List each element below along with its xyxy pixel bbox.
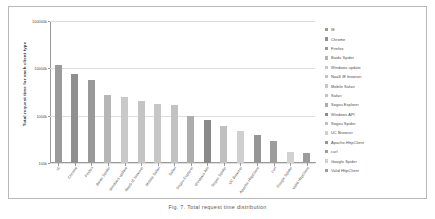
bar[interactable]	[88, 80, 95, 163]
bar[interactable]	[171, 105, 178, 163]
legend-label: Valid HttpClient	[331, 168, 359, 173]
bar[interactable]	[121, 97, 128, 163]
legend-label: Chrome	[331, 37, 345, 42]
x-label-slot: Valid HttpClient	[298, 165, 315, 207]
x-axis-tick-label: Chrome	[67, 166, 78, 180]
legend-label: Baidu Spider	[331, 55, 354, 60]
legend-label: Firefox	[331, 46, 343, 51]
legend-swatch-icon	[325, 94, 328, 97]
bar-slot	[282, 21, 299, 163]
legend-label: IE	[331, 27, 335, 32]
legend-label: Windows update	[331, 65, 361, 70]
legend-swatch-icon	[325, 37, 328, 40]
legend-item[interactable]: Apache-HttpClient	[325, 138, 431, 147]
legend-label: curl	[331, 149, 338, 154]
bar-slot	[67, 21, 84, 163]
legend-label: Google Spider	[331, 159, 357, 164]
legend-swatch-icon	[325, 131, 328, 134]
chart-figure: Total request time for each client type …	[0, 0, 435, 219]
legend-label: Apache-HttpClient	[331, 140, 364, 145]
y-axis-tick-label: 100000k	[32, 19, 47, 24]
legend-swatch-icon	[325, 122, 328, 125]
x-label-slot: Apache-HttpClient	[249, 165, 266, 207]
bar[interactable]	[71, 74, 78, 163]
legend-label: Mobile Safari	[331, 84, 355, 89]
legend-swatch-icon	[325, 150, 328, 153]
legend-item[interactable]: Sogou Explorer	[325, 100, 431, 109]
legend-label: NaaS IE browser	[331, 74, 362, 79]
legend-label: UC Browser	[331, 130, 353, 135]
legend-item[interactable]: Sogou Spider	[325, 119, 431, 128]
bar-slot	[133, 21, 150, 163]
bar[interactable]	[204, 120, 211, 164]
chart-frame: Total request time for each client type …	[8, 6, 427, 199]
legend-item[interactable]: NaaS IE browser	[325, 72, 431, 81]
bar[interactable]	[154, 104, 161, 163]
legend-item[interactable]: Baidu Spider	[325, 53, 431, 62]
bar[interactable]	[270, 141, 277, 163]
bar-slot	[249, 21, 266, 163]
legend-label: Safari	[331, 93, 342, 98]
bar[interactable]	[287, 152, 294, 164]
legend-item[interactable]: Firefox	[325, 44, 431, 53]
y-axis-tick-label: 1000k	[36, 113, 47, 118]
bar-slot	[216, 21, 233, 163]
bar-slot	[183, 21, 200, 163]
bar[interactable]	[55, 65, 62, 163]
legend-swatch-icon	[325, 159, 328, 162]
bar-slot	[298, 21, 315, 163]
bar[interactable]	[254, 135, 261, 163]
legend-item[interactable]: curl	[325, 147, 431, 156]
legend-swatch-icon	[325, 169, 328, 172]
legend-item[interactable]: Valid HttpClient	[325, 166, 431, 175]
bar[interactable]	[237, 131, 244, 163]
x-label-slot: Chrome	[67, 165, 84, 207]
bar-slot	[100, 21, 117, 163]
x-axis-tick-label: Safari	[168, 166, 177, 177]
legend-item[interactable]: UC Browser	[325, 128, 431, 137]
legend-swatch-icon	[325, 113, 328, 116]
chart-legend: IEChromeFirefoxBaidu SpiderWindows updat…	[325, 25, 431, 175]
legend-item[interactable]: Google Spider	[325, 156, 431, 165]
x-label-slot: Sogou Spider	[216, 165, 233, 207]
x-axis-tick-label: IE	[56, 166, 61, 171]
legend-swatch-icon	[325, 103, 328, 106]
bar-slot	[149, 21, 166, 163]
legend-item[interactable]: Safari	[325, 91, 431, 100]
legend-item[interactable]: Mobile Safari	[325, 81, 431, 90]
gridline	[50, 163, 315, 164]
bar[interactable]	[303, 153, 310, 163]
legend-item[interactable]: IE	[325, 25, 431, 34]
bar[interactable]	[220, 126, 227, 163]
legend-swatch-icon	[325, 75, 328, 78]
y-axis-tick-mark	[48, 163, 50, 164]
legend-swatch-icon	[325, 56, 328, 59]
bar-series	[50, 21, 315, 163]
legend-swatch-icon	[325, 66, 328, 69]
x-axis-tick-label: curl	[270, 166, 277, 173]
bar-slot	[116, 21, 133, 163]
legend-swatch-icon	[325, 141, 328, 144]
bar[interactable]	[187, 116, 194, 163]
bar-slot	[199, 21, 216, 163]
legend-item[interactable]: Chrome	[325, 34, 431, 43]
y-axis-tick-label: 100k	[39, 161, 47, 166]
x-label-slot: Mobile Safari	[149, 165, 166, 207]
legend-label: Sogou Explorer	[331, 102, 359, 107]
x-axis-labels: IEChromeFirefoxBaidu SpiderWindows updat…	[50, 165, 315, 207]
bar-slot	[50, 21, 67, 163]
legend-item[interactable]: Windows update	[325, 63, 431, 72]
bar-slot	[166, 21, 183, 163]
y-axis-title: Total request time for each client type	[22, 24, 28, 144]
legend-swatch-icon	[325, 84, 328, 87]
legend-label: Windows API	[331, 112, 355, 117]
x-label-slot: IE	[50, 165, 67, 207]
bar[interactable]	[104, 95, 111, 163]
legend-item[interactable]: Windows API	[325, 110, 431, 119]
bar-slot	[232, 21, 249, 163]
bar[interactable]	[138, 101, 145, 163]
legend-swatch-icon	[325, 28, 328, 31]
plot-area: 100000k10000k1000k100k	[50, 21, 315, 163]
bar-slot	[83, 21, 100, 163]
y-axis-tick-label: 10000k	[34, 66, 47, 71]
